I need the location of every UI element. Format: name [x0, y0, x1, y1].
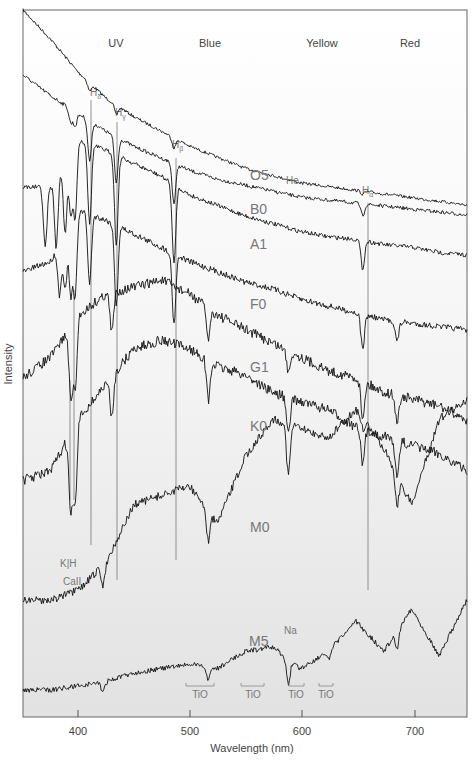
- ca-ii-label: CaII: [63, 576, 81, 587]
- ca-kh-label: K|H: [60, 558, 77, 569]
- class-label-g1: G1: [250, 359, 269, 375]
- tio-label-3: TiO: [288, 689, 304, 700]
- class-label-m0: M0: [250, 519, 270, 535]
- class-label-a1: A1: [250, 236, 267, 252]
- band-label-red: Red: [400, 37, 420, 49]
- tio-label-1: TiO: [192, 689, 208, 700]
- x-tick-400: 400: [69, 725, 87, 737]
- class-label-m5: M5: [249, 633, 269, 649]
- class-label-k0: K0: [250, 418, 267, 434]
- x-tick-600: 600: [293, 725, 311, 737]
- class-label-b0: B0: [250, 201, 267, 217]
- tio-label-4: TiO: [318, 689, 334, 700]
- class-label-o5: O5: [250, 167, 269, 183]
- x-tick-700: 700: [406, 725, 424, 737]
- na-label: Na: [284, 625, 297, 636]
- x-axis-title: Wavelength (nm): [210, 742, 293, 754]
- band-label-yellow: Yellow: [306, 37, 337, 49]
- class-label-f0: F0: [250, 296, 267, 312]
- plot-area: [23, 10, 467, 717]
- x-tick-500: 500: [181, 725, 199, 737]
- he-label: He: [286, 175, 299, 186]
- tio-label-2: TiO: [245, 689, 261, 700]
- band-label-blue: Blue: [199, 37, 221, 49]
- stellar-spectra-chart: UV Blue Yellow Red Hδ Hγ Hβ Hα O5 B0 A1 …: [0, 0, 475, 760]
- y-axis-title: Intensity: [2, 343, 14, 384]
- band-label-uv: UV: [108, 37, 124, 49]
